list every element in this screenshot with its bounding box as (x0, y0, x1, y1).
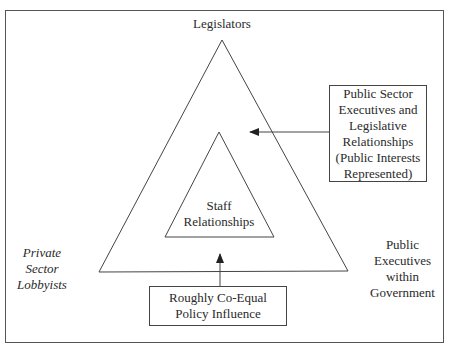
bottom-box-line: Roughly Co-Equal (169, 290, 267, 306)
right-box-line: (Public Interests (336, 150, 421, 166)
right-box-line: Executives and (338, 102, 417, 118)
left-label-line: Lobbyists (12, 277, 72, 293)
left-label-line: Private (12, 245, 72, 261)
policy-influence-box: Roughly Co-Equal Policy Influence (149, 286, 287, 326)
legislators-label: Legislators (172, 16, 272, 32)
right-label-line: Executives (360, 253, 445, 269)
public-executives-label: Public Executives within Government (360, 237, 445, 301)
right-label-line: Government (360, 285, 445, 301)
right-box-line: Represented) (344, 166, 413, 182)
private-sector-lobbyists-label: Private Sector Lobbyists (12, 245, 72, 293)
inner-label-line: Staff (169, 198, 269, 214)
bottom-box-line: Policy Influence (175, 306, 261, 322)
right-label-line: Public (360, 237, 445, 253)
right-label-line: within (360, 269, 445, 285)
inner-label-line: Relationships (169, 214, 269, 230)
left-label-line: Sector (12, 261, 72, 277)
public-sector-relationships-box: Public Sector Executives and Legislative… (329, 85, 427, 182)
staff-relationships-label: Staff Relationships (169, 198, 269, 230)
right-box-line: Relationships (343, 134, 414, 150)
right-box-line: Legislative (349, 118, 407, 134)
right-box-line: Public Sector (343, 86, 413, 102)
